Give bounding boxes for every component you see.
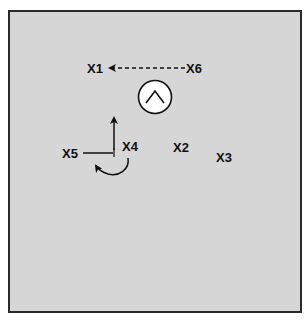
label-x5: X5 xyxy=(62,147,78,160)
label-x3: X3 xyxy=(216,151,232,164)
label-x2: X2 xyxy=(173,141,189,154)
rotation-arrow-icon xyxy=(96,158,128,175)
label-x6: X6 xyxy=(186,62,202,75)
label-x1: X1 xyxy=(87,62,103,75)
label-x4: X4 xyxy=(122,140,138,153)
horizontal-line-x5 xyxy=(83,148,114,157)
diagram-graphics xyxy=(0,0,307,321)
caret-up-circle-icon xyxy=(139,81,172,114)
